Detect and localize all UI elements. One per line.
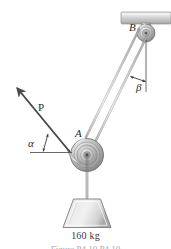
- pulley-a-label: A: [75, 128, 82, 139]
- pulley-b-label: B: [129, 22, 136, 33]
- alpha-arc: [43, 134, 48, 151]
- physics-figure-pulley-system: A B P α β 160 kg Figure P4.10 P4.10: [0, 0, 171, 249]
- mass-label: 160 kg: [0, 230, 171, 241]
- force-p-label: P: [38, 102, 44, 113]
- figure-caption: Figure P4.10 P4.10: [0, 244, 171, 249]
- weight-block: [63, 199, 111, 228]
- angle-beta-label: β: [136, 82, 141, 93]
- force-p-arrow: [18, 89, 70, 152]
- diagram-canvas: [0, 0, 171, 249]
- angle-alpha-label: α: [28, 138, 34, 149]
- angle-alpha-indicator: [30, 134, 72, 153]
